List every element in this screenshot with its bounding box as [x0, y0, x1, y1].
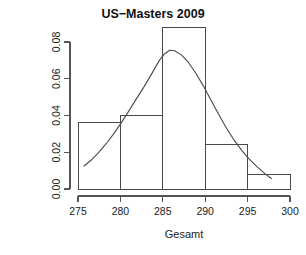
histogram-density-plot: US−Masters 2009 0.000.020.040.060.08 275…: [0, 0, 306, 255]
x-axis-tick-label: 275: [69, 205, 87, 217]
y-axis-tick-label: 0.08: [50, 32, 62, 53]
y-axis-tick-label: 0.00: [50, 179, 62, 200]
x-axis-tick-label: 280: [112, 205, 130, 217]
plot-background: [0, 0, 306, 255]
x-axis-label: Gesamt: [165, 228, 204, 240]
chart-container: US−Masters 2009 0.000.020.040.060.08 275…: [0, 0, 306, 255]
x-axis-tick-label: 300: [281, 205, 299, 217]
x-axis-tick-label: 290: [196, 205, 214, 217]
page-title: US−Masters 2009: [101, 7, 204, 21]
y-axis-tick-label: 0.06: [50, 68, 62, 89]
x-axis-tick-label: 285: [154, 205, 172, 217]
y-axis-tick-label: 0.04: [50, 105, 62, 126]
x-axis-tick-label: 295: [239, 205, 257, 217]
y-axis-tick-label: 0.02: [50, 142, 62, 163]
